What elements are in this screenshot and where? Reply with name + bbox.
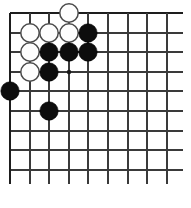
go-board-canvas[interactable] [0,0,191,208]
white-stone-c2r2[interactable] [21,24,39,42]
white-stone-c4r1[interactable] [60,4,78,22]
black-stone-c3r3[interactable] [40,43,58,61]
board-star-points [67,70,71,74]
star-point-c4r4 [67,70,71,74]
white-stone-c2r4[interactable] [21,63,39,81]
black-stone-c5r2[interactable] [79,24,97,42]
white-stone-c4r2[interactable] [60,24,78,42]
black-stone-c3r6[interactable] [40,102,58,120]
white-stone-c2r3[interactable] [21,43,39,61]
black-stone-c5r3[interactable] [79,43,97,61]
black-stone-c3r4[interactable] [40,63,58,81]
black-stone-c4r3[interactable] [60,43,78,61]
black-stone-c1r5[interactable] [1,82,19,100]
white-stone-c3r2[interactable] [40,24,58,42]
go-board-diagram [0,0,191,208]
